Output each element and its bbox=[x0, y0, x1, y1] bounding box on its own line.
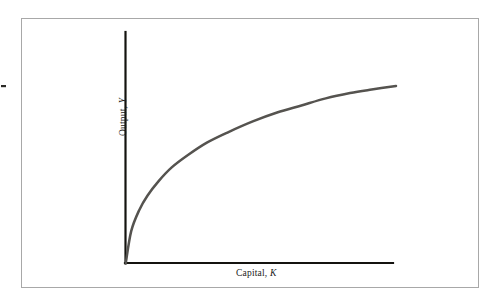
plot-canvas bbox=[0, 0, 500, 307]
production-function-curve bbox=[126, 86, 396, 263]
y-axis-label-text: Output, bbox=[118, 103, 128, 136]
y-axis-label: Output, Y bbox=[118, 98, 128, 136]
page-margin-artifact bbox=[1, 85, 6, 87]
x-axis-label-variable: K bbox=[270, 268, 277, 278]
figure-root: Output, Y Capital, K bbox=[0, 0, 500, 307]
y-axis-label-variable: Y bbox=[118, 98, 128, 103]
x-axis-label-text: Capital, bbox=[236, 268, 270, 278]
x-axis-label: Capital, K bbox=[236, 268, 277, 278]
